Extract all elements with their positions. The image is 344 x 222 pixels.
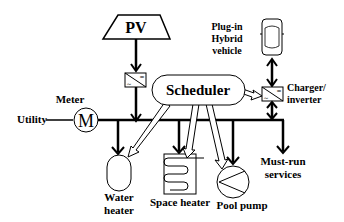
water-heater-label-line1: Water — [104, 191, 133, 203]
charger-dc-symbol: = — [276, 87, 281, 94]
pv-panel: PV — [103, 15, 170, 39]
control-arrow-pool-pump — [206, 104, 228, 169]
pool-pump-label: Pool pump — [216, 199, 267, 211]
charger-label-line2: inverter — [287, 94, 322, 105]
charger-label-line1: Charger/ — [287, 82, 326, 93]
pv-label: PV — [125, 19, 147, 36]
water-heater-icon — [107, 155, 131, 191]
space-heater-label: Space heater — [150, 196, 210, 208]
must-run-label-line2: services — [265, 168, 302, 180]
must-run-label-line1: Must-run — [260, 155, 305, 167]
utility-label: Utility — [17, 113, 47, 125]
dc-symbol: = — [139, 73, 144, 80]
charger-ac-symbol: ~ — [263, 94, 268, 101]
charger-inverter-icon: = ~ — [262, 87, 283, 101]
meter-symbol: M — [78, 111, 94, 131]
space-heater-icon — [164, 154, 204, 194]
vehicle-label-line3: vehicle — [212, 45, 242, 56]
vehicle-label-line2: Hybrid — [211, 33, 243, 44]
control-arrow-water-heater — [128, 102, 170, 157]
meter-label: Meter — [56, 93, 85, 105]
scheduler-label: Scheduler — [166, 82, 231, 98]
home-energy-diagram: PV = ~ Utility Meter M Water heater Spac… — [0, 0, 344, 222]
water-heater-label-line2: heater — [104, 204, 134, 216]
pv-inverter-icon: = ~ — [125, 73, 146, 87]
control-arrow-space-heater — [183, 104, 199, 158]
ac-symbol: ~ — [126, 80, 131, 87]
vehicle-icon — [260, 19, 284, 55]
vehicle-label-line1: Plug-in — [211, 21, 243, 32]
pool-pump-icon — [217, 166, 249, 198]
